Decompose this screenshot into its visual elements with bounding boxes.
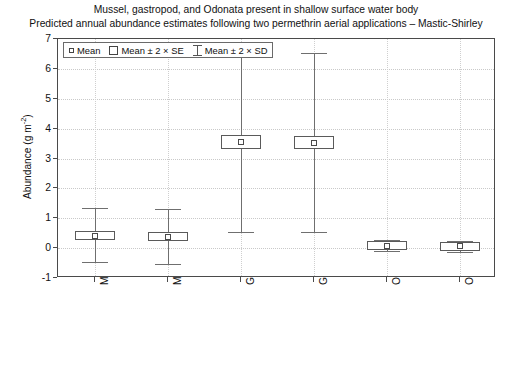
x-tick-mark bbox=[386, 277, 387, 282]
sd-cap-top bbox=[155, 209, 181, 210]
y-tick-label: 0 bbox=[3, 242, 51, 253]
legend-label-se: Mean ± 2 × SE bbox=[121, 45, 183, 56]
mean-marker bbox=[165, 234, 171, 240]
legend-item-mean: Mean bbox=[69, 45, 100, 56]
legend-label-mean: Mean bbox=[77, 45, 100, 56]
sd-cap-bottom bbox=[155, 264, 181, 265]
sd-cap-top bbox=[301, 53, 327, 54]
chart-title-block: Mussel, gastropod, and Odonata present i… bbox=[0, 3, 512, 30]
sd-cap-bottom bbox=[447, 252, 473, 253]
gridline bbox=[58, 99, 494, 100]
se-box-icon bbox=[109, 46, 118, 55]
mean-marker bbox=[92, 233, 98, 239]
chart-subtitle: Predicted annual abundance estimates fol… bbox=[0, 17, 512, 31]
chart-canvas: Mussel, gastropod, and Odonata present i… bbox=[0, 0, 512, 368]
legend-item-se: Mean ± 2 × SE bbox=[109, 45, 183, 56]
y-tick-label: 1 bbox=[3, 212, 51, 223]
gridline bbox=[58, 218, 494, 219]
gridline bbox=[58, 188, 494, 189]
mean-marker bbox=[311, 140, 317, 146]
x-tick-mark bbox=[167, 277, 168, 282]
y-tick-label: -1 bbox=[3, 272, 51, 283]
y-tick-label: 7 bbox=[3, 33, 51, 44]
sd-cap-bottom bbox=[82, 262, 108, 263]
y-tick-mark bbox=[53, 277, 57, 278]
chart-legend: Mean Mean ± 2 × SE Mean ± 2 × SD bbox=[63, 42, 273, 58]
x-tick-mark bbox=[94, 277, 95, 282]
sd-cap-bottom bbox=[228, 232, 254, 233]
x-tick-mark bbox=[313, 277, 314, 282]
gridline bbox=[58, 129, 494, 130]
chart-title: Mussel, gastropod, and Odonata present i… bbox=[0, 3, 512, 17]
sd-cap-bottom bbox=[301, 232, 327, 233]
y-tick-label: 6 bbox=[3, 62, 51, 73]
gridline bbox=[58, 248, 494, 249]
y-tick-label: 3 bbox=[3, 152, 51, 163]
mean-marker-icon bbox=[69, 48, 74, 53]
x-tick-mark bbox=[459, 277, 460, 282]
y-tick-label: 4 bbox=[3, 122, 51, 133]
legend-item-sd: Mean ± 2 × SD bbox=[193, 45, 268, 56]
gridline bbox=[58, 159, 494, 160]
y-tick-label: 2 bbox=[3, 182, 51, 193]
sd-cap-top bbox=[82, 208, 108, 209]
plot-area: Mean Mean ± 2 × SE Mean ± 2 × SD bbox=[57, 38, 495, 277]
mean-marker bbox=[457, 243, 463, 249]
sd-whisker-icon bbox=[193, 45, 202, 56]
legend-label-sd: Mean ± 2 × SD bbox=[205, 45, 268, 56]
x-tick-mark bbox=[240, 277, 241, 282]
gridline bbox=[58, 69, 494, 70]
sd-cap-bottom bbox=[374, 251, 400, 252]
mean-marker bbox=[238, 139, 244, 145]
y-tick-label: 5 bbox=[3, 92, 51, 103]
mean-marker bbox=[384, 243, 390, 249]
